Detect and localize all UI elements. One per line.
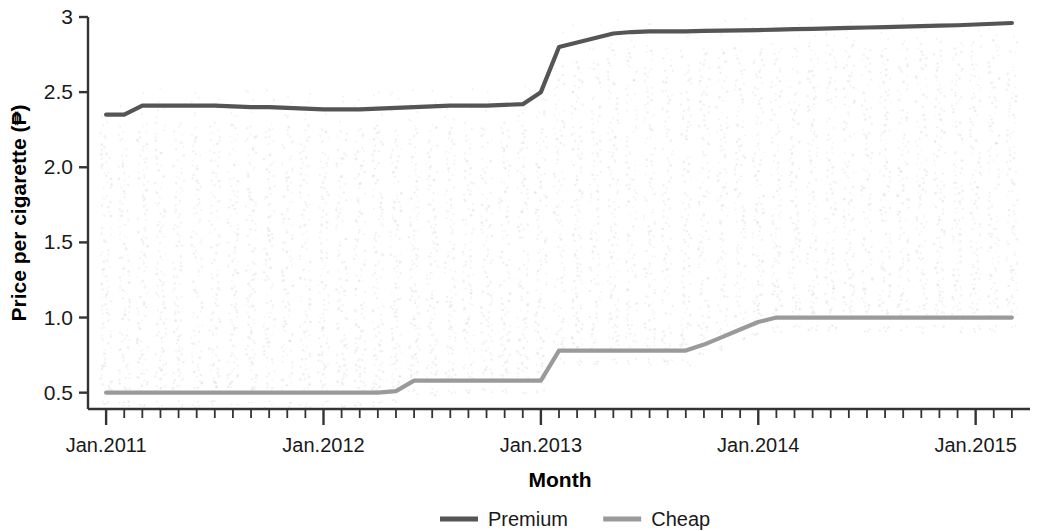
price-per-cigarette-chart: 0.51.01.52.02.53 Jan.2011Jan.2012Jan.201…	[0, 0, 1040, 531]
chart-canvas: 0.51.01.52.02.53 Jan.2011Jan.2012Jan.201…	[0, 0, 1040, 531]
y-tick-label: 1.0	[44, 306, 73, 329]
y-axis-title: Price per cigarette (₱)	[7, 104, 30, 321]
y-tick-label: 3	[61, 5, 73, 28]
x-tick-label: Jan.2011	[66, 434, 147, 456]
y-tick-label: 2.5	[44, 80, 73, 103]
x-tick-label: Jan.2012	[282, 434, 364, 456]
y-tick-label: 2.0	[44, 155, 73, 178]
legend-label-premium: Premium	[488, 508, 568, 530]
x-tick-label: Jan.2015	[935, 434, 1017, 456]
legend-label-cheap: Cheap	[651, 508, 710, 530]
y-tick-label: 0.5	[44, 381, 73, 404]
x-tick-label: Jan.2014	[717, 434, 799, 456]
x-tick-label: Jan.2013	[500, 434, 582, 456]
y-tick-label: 1.5	[44, 230, 73, 253]
x-axis-title: Month	[529, 468, 592, 491]
